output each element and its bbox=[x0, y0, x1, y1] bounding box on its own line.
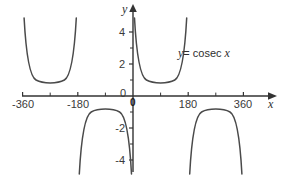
ytick-label-neg2: -2 bbox=[104, 123, 125, 134]
curve-branch-180-360 bbox=[190, 109, 242, 174]
curve-equation-var: x bbox=[225, 46, 230, 60]
curve-branch-neg360-neg180 bbox=[24, 18, 76, 83]
origin-marker-label: 0 bbox=[130, 98, 136, 108]
y-axis-arrowhead bbox=[129, 4, 137, 12]
plot-area bbox=[0, 0, 281, 182]
curve-equation-label: y= cosec x bbox=[178, 47, 230, 59]
curve-equation-body: = cosec bbox=[183, 47, 221, 59]
ytick-label-4: 4 bbox=[108, 27, 125, 38]
ytick-label-2: 2 bbox=[108, 59, 125, 70]
x-axis-name-label: x bbox=[268, 98, 273, 110]
origin-tick-label: 0 bbox=[112, 88, 126, 99]
y-axis-name-label: y bbox=[122, 3, 127, 15]
xtick-label-neg360: -360 bbox=[2, 99, 44, 110]
xtick-label-180: 180 bbox=[167, 99, 209, 110]
xtick-label-neg180: -180 bbox=[57, 99, 99, 110]
cosec-graph-figure: -360 -180 180 360 0 0 4 2 -2 -4 y x y= c… bbox=[0, 0, 281, 182]
ytick-label-neg4: -4 bbox=[104, 155, 125, 166]
xtick-label-360: 360 bbox=[222, 99, 264, 110]
